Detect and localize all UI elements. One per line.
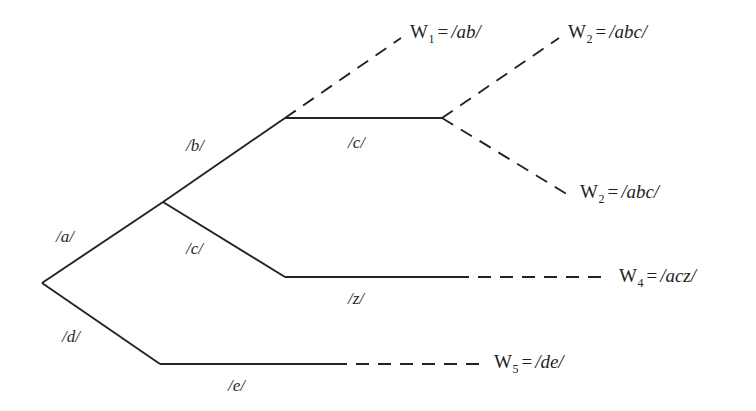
- edge-label-d: /d/: [62, 328, 80, 345]
- word-label-w5: W5=/de/: [494, 352, 564, 375]
- w4-form: /acz/: [660, 265, 696, 286]
- edge-label-z: /z/: [348, 290, 364, 307]
- edge-label-b: /b/: [186, 137, 204, 154]
- w2-lower-symbol: W: [580, 181, 598, 202]
- w1-form: /ab/: [451, 21, 481, 42]
- w2-upper-equals: =: [593, 21, 609, 42]
- w2-lower-form: /abc/: [621, 181, 659, 202]
- word-label-w4: W4=/acz/: [619, 266, 696, 289]
- w1-symbol: W: [410, 21, 428, 42]
- w5-equals: =: [519, 351, 535, 372]
- word-label-w1: W1=/ab/: [410, 22, 481, 45]
- w1-equals: =: [435, 21, 451, 42]
- w2-upper-form: /abc/: [609, 21, 647, 42]
- w4-equals: =: [644, 265, 660, 286]
- edge-label-a: /a/: [56, 228, 74, 245]
- word-label-w2-lower: W2=/abc/: [580, 182, 659, 205]
- w4-symbol: W: [619, 265, 637, 286]
- edge-label-c-lower: /c/: [186, 240, 203, 257]
- edge-label-c-upper: /c/: [348, 134, 365, 151]
- w5-form: /de/: [535, 351, 564, 372]
- w2-upper-symbol: W: [568, 21, 586, 42]
- w5-symbol: W: [494, 351, 512, 372]
- w2-lower-equals: =: [605, 181, 621, 202]
- edge-label-e: /e/: [228, 377, 245, 394]
- label-layer: /a/ /b/ /c/ /c/ /z/ /d/ /e/ W1=/ab/ W2=/…: [0, 0, 756, 411]
- lexical-tree-diagram: /a/ /b/ /c/ /c/ /z/ /d/ /e/ W1=/ab/ W2=/…: [0, 0, 756, 411]
- word-label-w2-upper: W2=/abc/: [568, 22, 647, 45]
